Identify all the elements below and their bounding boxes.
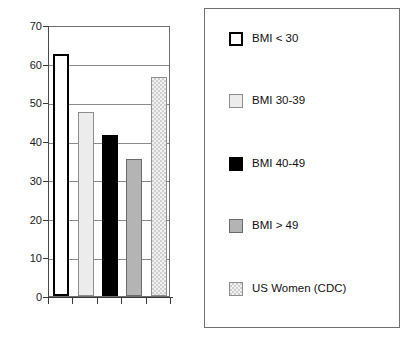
bar (151, 77, 167, 296)
y-axis-tick-mark (43, 142, 48, 143)
x-axis-tick-mark (121, 298, 122, 304)
legend-item-label: BMI 30-39 (252, 95, 305, 107)
legend-swatch-icon (229, 282, 243, 296)
legend-swatch-icon (229, 94, 243, 108)
legend-item[interactable]: BMI 30-39 (229, 93, 305, 109)
legend-swatch-icon (229, 157, 243, 171)
y-axis-tick-mark (43, 103, 48, 104)
legend-swatch-icon (229, 32, 243, 46)
legend-swatch-icon (229, 219, 243, 233)
legend-item-label: BMI < 30 (252, 33, 298, 45)
plot-area (48, 26, 170, 297)
y-axis-tick-label: 10 (2, 253, 42, 264)
bar (78, 112, 94, 296)
bar-chart-panel: 010203040506070 (0, 0, 200, 345)
legend-item[interactable]: BMI < 30 (229, 31, 298, 47)
legend-item[interactable]: US Women (CDC) (229, 281, 346, 297)
legend: BMI < 30BMI 30-39BMI 40-49BMI > 49US Wom… (204, 8, 400, 328)
legend-item-label: BMI 40-49 (252, 158, 305, 170)
y-axis-tick-mark (43, 181, 48, 182)
y-axis-tick-mark (43, 220, 48, 221)
y-axis-tick-mark (43, 26, 48, 27)
legend-item-label: US Women (CDC) (252, 283, 346, 295)
y-axis-tick-mark (43, 258, 48, 259)
legend-item[interactable]: BMI 40-49 (229, 156, 305, 172)
y-axis-tick-label: 60 (2, 59, 42, 70)
y-axis-tick-label: 20 (2, 214, 42, 225)
legend-item-label: BMI > 49 (252, 220, 298, 232)
bar (53, 54, 69, 296)
x-axis-tick-mark (97, 298, 98, 304)
x-axis-tick-mark (170, 298, 171, 304)
y-axis-tick-label: 70 (2, 21, 42, 32)
x-axis-line (45, 297, 173, 298)
bar (102, 135, 118, 296)
y-axis-line (48, 26, 49, 298)
y-axis-tick-label: 40 (2, 137, 42, 148)
y-axis-tick-label: 50 (2, 98, 42, 109)
y-axis-tick-label: 30 (2, 175, 42, 186)
x-axis-tick-mark (72, 298, 73, 304)
legend-item[interactable]: BMI > 49 (229, 218, 298, 234)
chart-figure: 010203040506070 BMI < 30BMI 30-39BMI 40-… (0, 0, 406, 345)
x-axis-tick-mark (146, 298, 147, 304)
y-axis-tick-label: 0 (2, 292, 42, 303)
bar (126, 159, 142, 296)
y-axis-tick-mark (43, 65, 48, 66)
x-axis-tick-mark (48, 298, 49, 304)
